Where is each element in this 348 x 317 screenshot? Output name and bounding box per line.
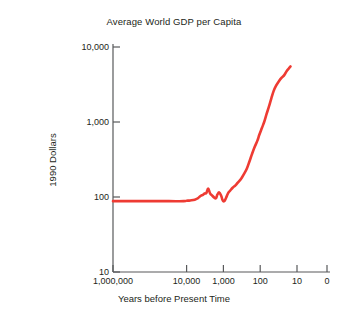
plot-area — [0, 0, 348, 317]
x-tick-label-4: 10 — [292, 276, 302, 286]
y-tick-label-0: 10,000 — [55, 42, 109, 52]
y-tick-label-1: 1,000 — [55, 117, 109, 127]
x-tick-label-2: 1,000 — [212, 276, 235, 286]
x-tick-label-5: 0 — [324, 276, 329, 286]
x-tick-label-0: 1,000,000 — [93, 276, 133, 286]
axes — [113, 44, 330, 272]
x-tick-label-1: 10,000 — [173, 276, 201, 286]
y-axis-ticks — [113, 47, 120, 272]
x-tick-label-3: 100 — [253, 276, 268, 286]
data-series-group — [113, 66, 291, 201]
gdp-per-capita-line — [113, 66, 291, 201]
chart-figure: Average World GDP per Capita 1990 Dollar… — [0, 0, 348, 317]
x-axis-ticks — [113, 265, 327, 272]
y-tick-label-2: 100 — [55, 192, 109, 202]
